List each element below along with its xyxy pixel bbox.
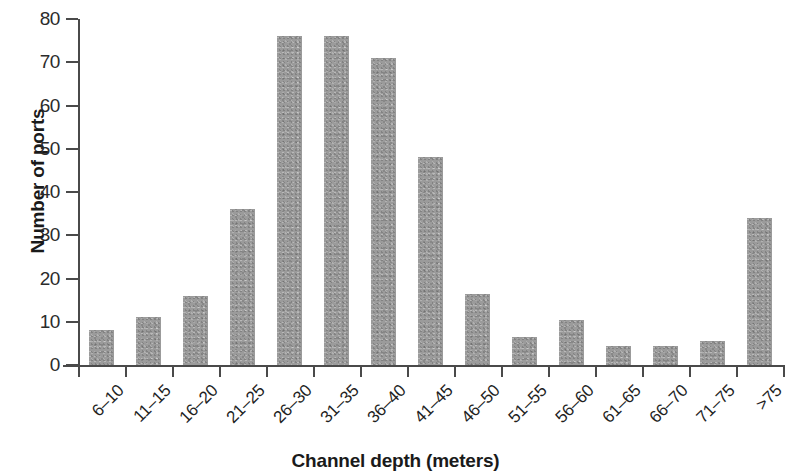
- x-axis-tick: [266, 367, 268, 377]
- x-axis-tick: [219, 367, 221, 377]
- y-axis-tick-label: 0: [20, 354, 60, 376]
- x-axis-tick: [548, 367, 550, 377]
- y-axis-tick: [66, 18, 78, 20]
- x-axis-tick: [78, 367, 80, 377]
- bar: [89, 330, 114, 365]
- bar: [512, 337, 537, 365]
- x-axis-tick: [783, 367, 785, 377]
- bar: [371, 58, 396, 365]
- x-axis-tick: [360, 367, 362, 377]
- bar: [559, 320, 584, 365]
- bar: [606, 346, 631, 365]
- y-axis-tick: [66, 364, 78, 366]
- x-axis-tick: [313, 367, 315, 377]
- bar: [324, 36, 349, 365]
- y-axis-tick-label: 10: [20, 311, 60, 333]
- y-axis-tick: [66, 105, 78, 107]
- x-axis-title: Channel depth (meters): [0, 450, 791, 472]
- bar: [230, 209, 255, 365]
- y-axis-tick: [66, 191, 78, 193]
- x-axis-tick: [642, 367, 644, 377]
- bar-chart: Number of ports 01020304050607080 6–1011…: [0, 0, 791, 472]
- y-axis-tick-label: 60: [20, 95, 60, 117]
- x-axis-tick: [407, 367, 409, 377]
- y-axis-tick-label: 30: [20, 224, 60, 246]
- x-axis-tick: [689, 367, 691, 377]
- x-axis-tick: [736, 367, 738, 377]
- y-axis-tick: [66, 148, 78, 150]
- bar: [700, 341, 725, 365]
- y-axis-tick-label: 70: [20, 51, 60, 73]
- y-axis-tick-label: 40: [20, 181, 60, 203]
- x-axis-tick: [172, 367, 174, 377]
- y-axis-tick-label: 80: [20, 8, 60, 30]
- y-axis-tick-label: 20: [20, 268, 60, 290]
- x-axis-tick: [501, 367, 503, 377]
- y-axis-tick: [66, 278, 78, 280]
- plot-area: [78, 19, 783, 365]
- x-axis-tick: [454, 367, 456, 377]
- bar: [136, 317, 161, 365]
- bar: [418, 157, 443, 365]
- bar: [747, 218, 772, 365]
- bar: [653, 346, 678, 365]
- y-axis-tick: [66, 234, 78, 236]
- x-axis-tick: [595, 367, 597, 377]
- y-axis-tick: [66, 61, 78, 63]
- y-axis-tick: [66, 321, 78, 323]
- bar: [465, 294, 490, 365]
- x-axis-tick: [125, 367, 127, 377]
- y-axis-tick-label: 50: [20, 138, 60, 160]
- bar: [277, 36, 302, 365]
- bar: [183, 296, 208, 365]
